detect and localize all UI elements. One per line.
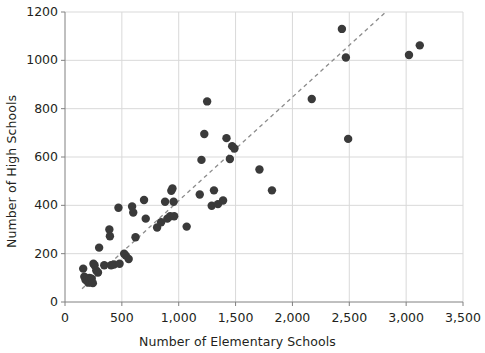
- data-point: [170, 212, 178, 220]
- data-point: [197, 156, 205, 164]
- data-point: [168, 184, 176, 192]
- data-point: [200, 130, 208, 138]
- data-point: [94, 268, 102, 276]
- y-axis-tick-label: 200: [34, 246, 58, 261]
- data-point: [226, 155, 234, 163]
- data-point: [203, 97, 211, 105]
- data-point: [416, 41, 424, 49]
- data-point: [169, 198, 177, 206]
- y-axis-tick-label: 1200: [26, 4, 58, 19]
- y-axis-tick-label: 600: [34, 149, 58, 164]
- x-axis-title: Number of Elementary Schools: [0, 334, 475, 349]
- data-point: [89, 279, 97, 287]
- data-point: [106, 232, 114, 240]
- data-point: [268, 186, 276, 194]
- data-point: [114, 204, 122, 212]
- data-point: [131, 233, 139, 241]
- data-point: [344, 135, 352, 143]
- data-point: [405, 51, 413, 59]
- data-point: [338, 25, 346, 33]
- x-axis-tick-label: 3,500: [428, 310, 485, 325]
- data-point: [219, 196, 227, 204]
- data-point: [140, 196, 148, 204]
- data-point: [222, 134, 230, 142]
- y-axis-tick-label: 1000: [26, 52, 58, 67]
- data-point: [115, 260, 123, 268]
- data-point: [255, 165, 263, 173]
- data-point: [161, 198, 169, 206]
- data-point: [230, 144, 238, 152]
- data-point: [79, 264, 87, 272]
- data-point: [210, 186, 218, 194]
- y-axis-title: Number of High Schools: [4, 95, 19, 248]
- y-axis-tick-label: 400: [34, 197, 58, 212]
- data-point: [95, 243, 103, 251]
- y-axis-tick-label: 800: [34, 101, 58, 116]
- data-point: [342, 53, 350, 61]
- y-axis-tick-label: 0: [50, 294, 58, 309]
- data-point: [182, 222, 190, 230]
- data-point: [308, 95, 316, 103]
- data-point: [142, 214, 150, 222]
- data-point: [196, 190, 204, 198]
- data-point: [129, 208, 137, 216]
- data-point: [124, 255, 132, 263]
